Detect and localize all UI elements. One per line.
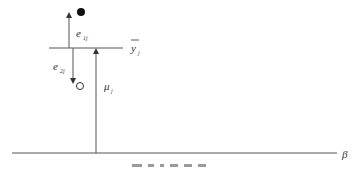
mu-label: μ xyxy=(103,80,110,92)
e1-subscript: 1j xyxy=(83,35,88,41)
e2-subscript: 2j xyxy=(60,68,65,74)
figure-caption-cropped xyxy=(132,164,220,169)
group-mean-label: y xyxy=(130,42,136,54)
axis-label-beta: β xyxy=(341,148,348,160)
e1-label: e xyxy=(76,27,81,39)
open-observation-point xyxy=(77,83,84,90)
filled-observation-point xyxy=(77,8,85,16)
e2-label: e xyxy=(53,60,58,72)
mu-subscript: j xyxy=(110,88,113,94)
diagram-canvas: β y j μ j e 1j e 2j xyxy=(0,0,356,169)
group-mean-subscript: j xyxy=(137,50,140,56)
